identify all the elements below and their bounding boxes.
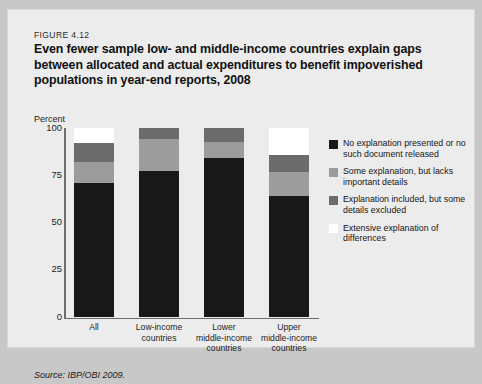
stacked-bar[interactable] (269, 128, 309, 317)
bar-segment (139, 128, 179, 139)
bar-segment (204, 142, 244, 158)
legend-swatch-icon (329, 168, 338, 177)
y-tick-label: 0 (28, 311, 62, 322)
bar-segment (269, 128, 309, 155)
source-note: Source: IBP/OBI 2009. (34, 370, 125, 380)
legend-label: Extensive explanation of differences (343, 223, 469, 244)
legend-item[interactable]: Some explanation, but lacks important de… (329, 166, 469, 187)
bar-segment (139, 139, 179, 171)
y-axis-ticks: 0255075100 (18, 10, 62, 347)
figure-card: FIGURE 4.12 Even fewer sample low- and m… (8, 10, 474, 347)
bar-group (64, 128, 319, 317)
x-axis-label: Uppermiddle-incomecountries (246, 322, 332, 354)
legend-swatch-icon (329, 140, 338, 149)
chart-legend: No explanation presented or no such docu… (329, 138, 469, 251)
bar-segment (74, 183, 114, 317)
stacked-bar[interactable] (74, 128, 114, 317)
bar-segment (74, 162, 114, 183)
legend-swatch-icon (329, 196, 338, 205)
legend-swatch-icon (329, 224, 338, 233)
y-tick-label: 100 (28, 122, 62, 133)
legend-item[interactable]: Explanation included, but some details e… (329, 194, 469, 215)
legend-label: Explanation included, but some details e… (343, 194, 469, 215)
y-tick-label: 75 (28, 169, 62, 180)
bar-segment (74, 143, 114, 162)
bar-segment (269, 155, 309, 172)
legend-item[interactable]: Extensive explanation of differences (329, 223, 469, 244)
stacked-bar[interactable] (139, 128, 179, 317)
bar-segment (139, 171, 179, 317)
legend-label: Some explanation, but lacks important de… (343, 166, 469, 187)
bar-segment (269, 172, 309, 196)
figure-page: FIGURE 4.12 Even fewer sample low- and m… (0, 0, 482, 384)
y-tick-label: 50 (28, 216, 62, 227)
bar-segment (74, 128, 114, 143)
bar-segment (204, 128, 244, 142)
stacked-bar[interactable] (204, 128, 244, 317)
legend-label: No explanation presented or no such docu… (343, 138, 469, 159)
bar-segment (204, 158, 244, 317)
bar-segment (269, 196, 309, 317)
y-tick-label: 25 (28, 263, 62, 274)
legend-item[interactable]: No explanation presented or no such docu… (329, 138, 469, 159)
x-axis-line (64, 318, 319, 320)
